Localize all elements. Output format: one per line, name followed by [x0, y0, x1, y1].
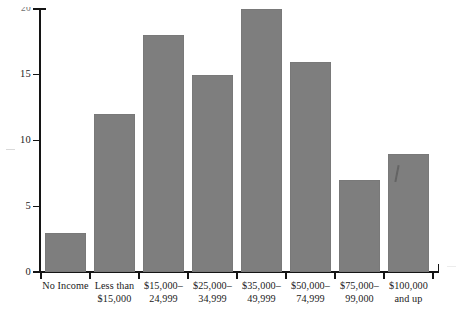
x-axis-label-line1: $25,000–	[193, 280, 232, 291]
x-axis-tick	[40, 272, 42, 279]
bar	[339, 180, 380, 272]
bars-group	[41, 9, 433, 272]
x-axis-tick	[334, 272, 336, 279]
x-axis-tick	[383, 272, 385, 279]
y-axis-tick	[33, 271, 40, 272]
bar	[192, 75, 233, 272]
y-axis-tick-label: 20	[5, 3, 31, 14]
y-axis-tick	[33, 74, 40, 75]
x-axis-tick	[432, 272, 434, 279]
bar	[143, 35, 184, 272]
scan-artifact-right-edge	[447, 266, 456, 267]
y-axis-tick-label: 10	[5, 135, 31, 146]
bar-chart: 05101520 No IncomeLess than$15,000$15,00…	[0, 0, 473, 317]
x-axis-tick	[89, 272, 91, 279]
x-axis-end-cap	[438, 264, 440, 272]
y-axis-tick	[33, 140, 40, 141]
x-axis-label-line2: and up	[378, 293, 439, 306]
y-axis-tick	[33, 206, 40, 207]
x-axis-tick	[138, 272, 140, 279]
y-axis-tick-label: 0	[5, 267, 31, 278]
bar	[290, 62, 331, 272]
x-axis-label-line1: $100,000	[389, 280, 428, 291]
x-axis-label-line1: $35,000–	[242, 280, 281, 291]
x-axis-label-line1: $75,000–	[340, 280, 379, 291]
x-axis-tick	[285, 272, 287, 279]
bar	[94, 114, 135, 272]
x-axis-label-line1: $15,000–	[144, 280, 183, 291]
y-axis-tick-label: 15	[5, 69, 31, 80]
x-axis-label-line1: No Income	[42, 280, 88, 291]
x-axis-label-line1: Less than	[95, 280, 135, 291]
bar	[241, 9, 282, 272]
x-axis-tick	[236, 272, 238, 279]
x-axis-label: $100,000and up	[378, 280, 439, 305]
y-axis-tick	[33, 8, 40, 9]
x-axis-label-line1: $50,000–	[291, 280, 330, 291]
x-axis-tick	[187, 272, 189, 279]
bar	[45, 233, 86, 272]
y-axis-tick-label: 5	[5, 201, 31, 212]
scan-artifact-left	[6, 149, 15, 150]
bar	[388, 154, 429, 272]
